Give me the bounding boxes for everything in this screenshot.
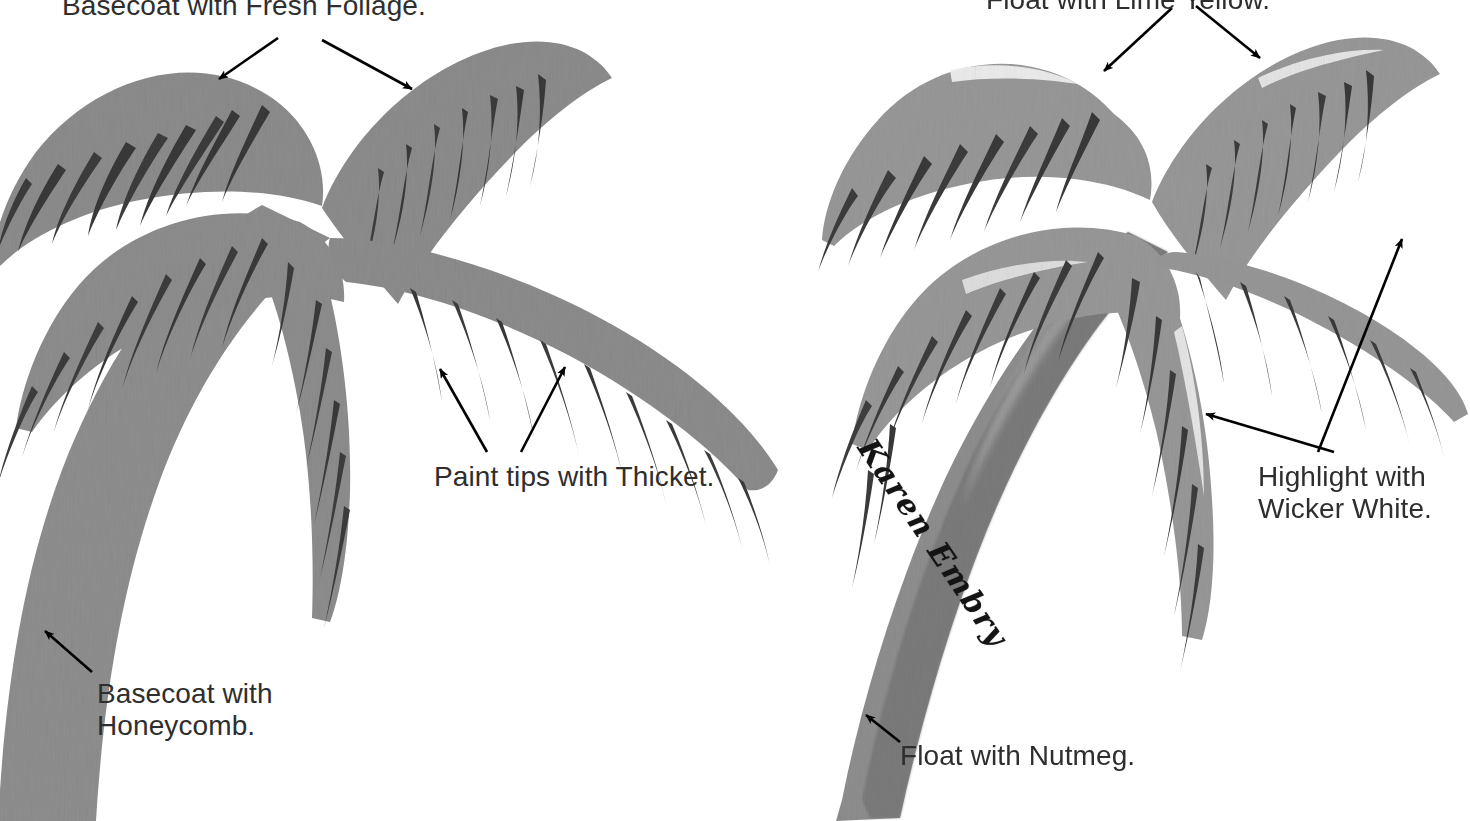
label-highlight-wicker-white: Highlight with Wicker White.: [1258, 461, 1432, 526]
label-float-nutmeg: Float with Nutmeg.: [900, 740, 1135, 772]
illustration-canvas: Basecoat with Fresh Foliage. Paint tips …: [0, 0, 1470, 821]
label-paint-tips-thicket: Paint tips with Thicket.: [434, 461, 714, 493]
label-basecoat-honeycomb: Basecoat with Honeycomb.: [97, 678, 273, 743]
label-basecoat-fresh-foliage: Basecoat with Fresh Foliage.: [62, 0, 426, 22]
label-float-lime-yellow: Float with Lime Yellow.: [986, 0, 1270, 16]
